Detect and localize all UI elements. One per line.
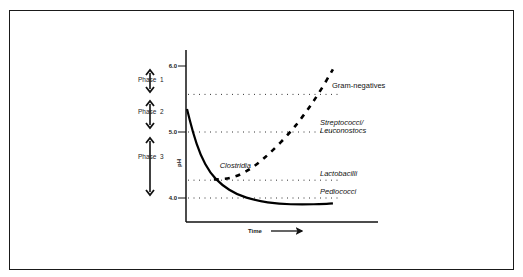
- phase-label: Phase: [138, 76, 157, 83]
- threshold-label: Gram-negatives: [332, 81, 386, 90]
- x-axis-label: Time: [248, 228, 263, 234]
- y-tick-label: 5.0: [169, 129, 178, 135]
- annotation-clostridia: Clostridia: [220, 161, 251, 170]
- ph-curve: [187, 109, 333, 205]
- phase-label: Phase: [138, 153, 157, 160]
- y-tick-label: 4.0: [169, 195, 178, 201]
- phase-number: 3: [160, 153, 164, 160]
- threshold-label: Pediococci: [320, 187, 357, 196]
- y-axis-label: pH: [176, 159, 182, 167]
- phase-number: 1: [160, 76, 164, 83]
- chart: 6.05.04.0pHTime Gram-negativesStreptococ…: [0, 0, 523, 277]
- threshold-label: Leuconostocs: [320, 126, 367, 135]
- y-tick-label: 6.0: [169, 63, 178, 69]
- threshold-label: Lactobacilli: [320, 169, 357, 178]
- phase-label: Phase: [138, 108, 157, 115]
- phase-number: 2: [160, 108, 164, 115]
